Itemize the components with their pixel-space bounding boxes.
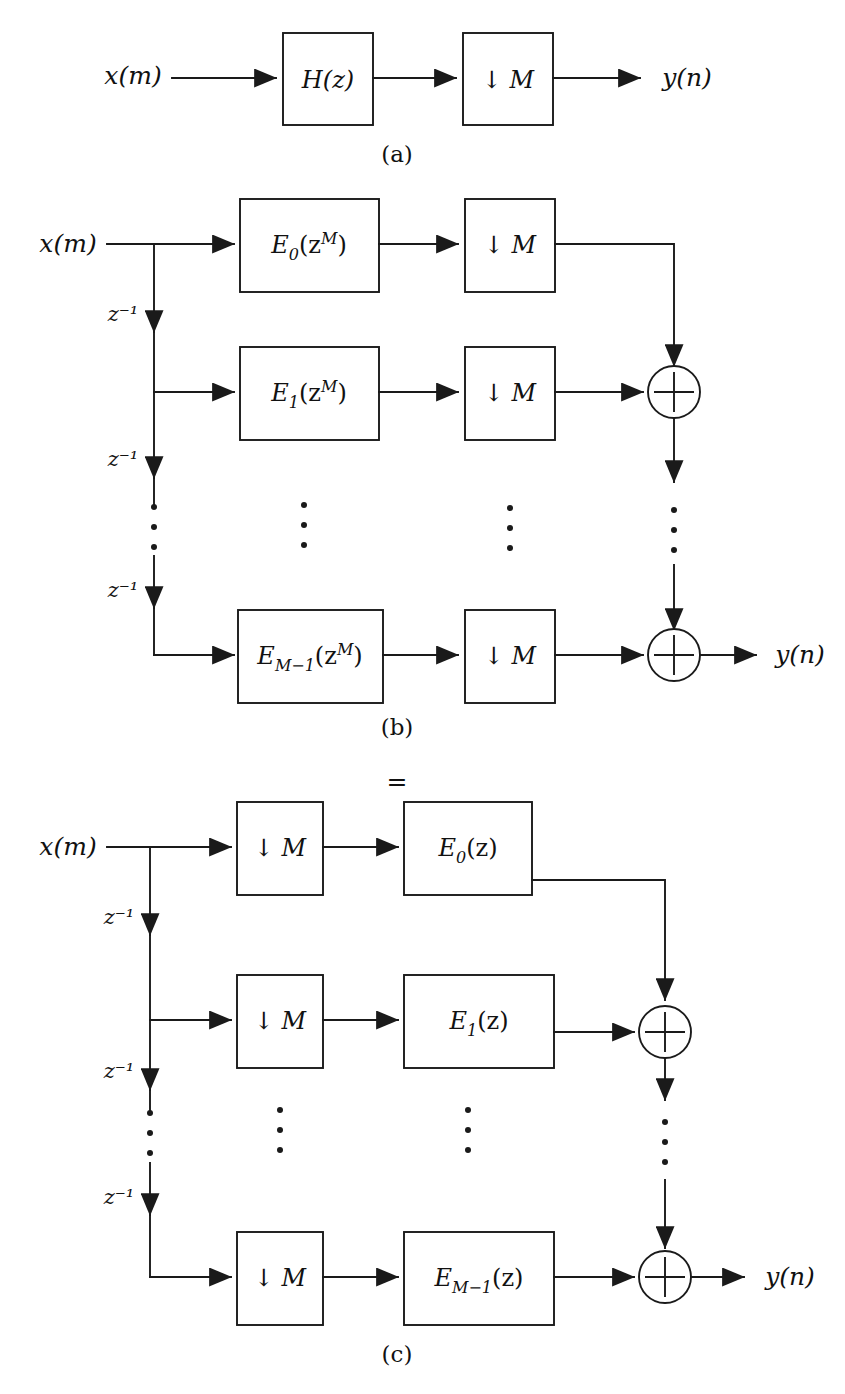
panel-b-branch2-decimator-label: ↓ M	[484, 642, 538, 670]
panel-a-decimator-label: ↓ M	[482, 66, 536, 94]
panel-c-adder-chain-ellipsis-icon	[662, 1119, 668, 1165]
panel-b-adder-1[interactable]	[648, 366, 700, 418]
equality-symbol: =	[387, 767, 408, 796]
panel-b-adder-chain-ellipsis-icon	[671, 507, 677, 553]
panel-b-branch1-decimator-label: ↓ M	[484, 379, 538, 407]
panel-b-col2-ellipsis-icon	[507, 505, 513, 551]
panel-b-branch0-decimator-label: ↓ M	[484, 231, 538, 259]
panel-c-branch2-decimator-label: ↓ M	[254, 1264, 308, 1292]
panel-a: x(m) H(z) ↓ M y(n) (a)	[104, 33, 712, 167]
panel-c-adder-2[interactable]	[639, 1251, 691, 1303]
panel-c-output-label: y(n)	[764, 1262, 815, 1291]
panel-b-col1-ellipsis-icon	[301, 502, 307, 548]
panel-b-adder-2[interactable]	[648, 629, 700, 681]
panel-c-input-label: x(m)	[39, 832, 96, 861]
panel-c-col2-ellipsis-icon	[465, 1107, 471, 1153]
panel-b-caption: (b)	[381, 714, 414, 740]
panel-c-caption: (c)	[382, 1341, 413, 1367]
panel-b-branch0-to-adder-wire	[555, 244, 674, 366]
panel-c-trunk-ellipsis-icon	[147, 1110, 153, 1156]
panel-a-filter-label: H(z)	[301, 66, 354, 94]
panel-b: x(m) z⁻¹ z⁻¹ z⁻¹ E0(zM) ↓ M E1(zM)	[39, 199, 825, 740]
panel-c-col1-ellipsis-icon	[277, 1107, 283, 1153]
panel-c: x(m) z⁻¹ z⁻¹ z⁻¹ ↓ M E0(z) ↓ M E1(z)	[39, 802, 815, 1367]
panel-b-delay-label-2: z⁻¹	[107, 447, 139, 471]
panel-c-delay-label-2: z⁻¹	[103, 1059, 135, 1083]
panel-b-trunk-ellipsis-icon	[151, 504, 157, 550]
panel-b-delay-label-1: z⁻¹	[107, 302, 139, 326]
panel-c-delay-label-3: z⁻¹	[103, 1185, 135, 1209]
panel-c-branch0-decimator-label: ↓ M	[254, 834, 308, 862]
panel-c-adder-1[interactable]	[639, 1006, 691, 1058]
panel-b-output-label: y(n)	[774, 640, 825, 669]
diagram-svg: x(m) H(z) ↓ M y(n) (a) x(m) z⁻¹ z⁻¹ z⁻¹	[0, 0, 845, 1394]
figure-canvas: x(m) H(z) ↓ M y(n) (a) x(m) z⁻¹ z⁻¹ z⁻¹	[0, 0, 845, 1394]
panel-b-delay-label-3: z⁻¹	[107, 578, 139, 602]
panel-a-caption: (a)	[381, 141, 413, 167]
panel-a-output-label: y(n)	[661, 63, 712, 92]
panel-b-input-label: x(m)	[39, 229, 96, 258]
panel-c-delay-label-1: z⁻¹	[103, 905, 135, 929]
panel-c-branch1-decimator-label: ↓ M	[254, 1007, 308, 1035]
panel-a-input-label: x(m)	[104, 61, 161, 90]
